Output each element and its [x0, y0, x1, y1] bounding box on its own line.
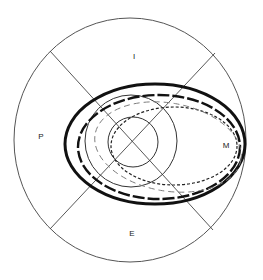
outer-boundary: [14, 18, 246, 262]
label-bottom: E: [129, 229, 134, 238]
short-dash-ellipse: [111, 107, 237, 185]
label-top: I: [133, 52, 135, 61]
medium-circle: [85, 95, 177, 187]
diagram-canvas: I P M E: [0, 0, 263, 280]
label-left: P: [38, 132, 43, 141]
label-right: M: [223, 141, 230, 150]
diagram-svg: I P M E: [0, 0, 263, 280]
